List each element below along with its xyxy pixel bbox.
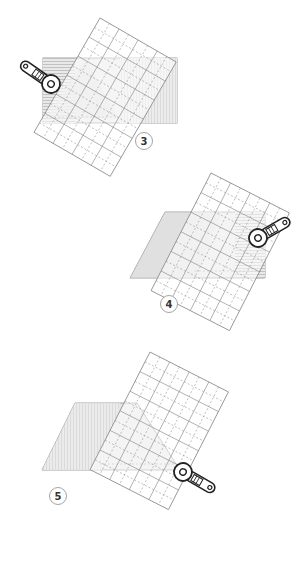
- step-3-illustration: 3: [16, 18, 177, 176]
- step-number: 5: [55, 491, 62, 502]
- ruler: [34, 18, 176, 176]
- step-number: 4: [166, 299, 173, 310]
- rotary-cutter-icon: [171, 460, 219, 498]
- step-number-badge: 4: [161, 296, 178, 313]
- step-number: 3: [141, 136, 148, 147]
- step-number-badge: 5: [50, 488, 67, 505]
- step-5-illustration: 5: [42, 352, 228, 510]
- quilting-diagram: 3 4: [0, 0, 305, 565]
- step-number-badge: 3: [136, 133, 153, 150]
- step-4-illustration: 4: [130, 173, 294, 331]
